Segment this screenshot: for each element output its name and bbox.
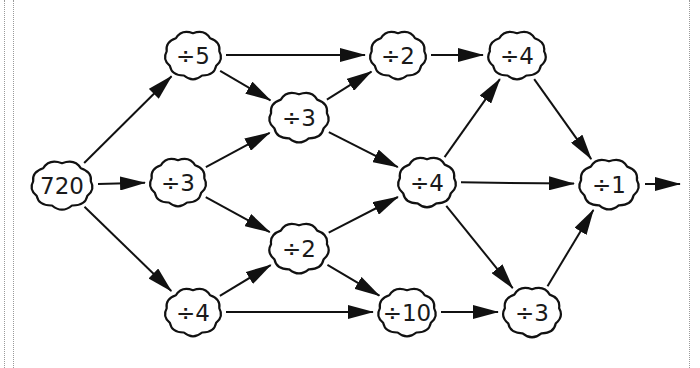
cloud-node-n_div3_a: ÷3 bbox=[150, 159, 206, 206]
arrow-n_div3_b-to-n_div2_a bbox=[327, 72, 372, 100]
cloud-node-start: 720 bbox=[32, 162, 93, 210]
arrow-n_div2_b-to-n_div4_b bbox=[329, 197, 398, 233]
node-label: ÷1 bbox=[592, 172, 626, 198]
node-label: ÷4 bbox=[500, 43, 534, 69]
node-label: ÷3 bbox=[515, 300, 549, 326]
node-label: ÷5 bbox=[176, 43, 210, 69]
cloud-node-n_div1: ÷1 bbox=[579, 160, 638, 210]
arrow-n_div3_a-to-n_div2_b bbox=[206, 197, 270, 232]
cloud-node-n_div4_c: ÷4 bbox=[488, 32, 546, 80]
node-label: ÷2 bbox=[381, 43, 415, 69]
cloud-node-n_div5: ÷5 bbox=[165, 32, 221, 79]
arrow-n_div5-to-n_div3_b bbox=[220, 71, 270, 100]
division-network-diagram: 720÷5÷3÷4÷3÷2÷2÷4÷10÷4÷1÷3 bbox=[0, 0, 700, 368]
cloud-node-n_div2_a: ÷2 bbox=[370, 32, 426, 79]
cloud-node-n_div10: ÷10 bbox=[378, 289, 436, 337]
arrow-n_div4_b-to-n_div4_c bbox=[445, 79, 500, 157]
node-label: ÷4 bbox=[176, 300, 210, 326]
arrow-n_div4_b-to-n_div1 bbox=[461, 182, 574, 183]
arrow-n_div4_b-to-n_div3_c bbox=[446, 206, 512, 288]
node-label: ÷3 bbox=[161, 170, 195, 196]
arrow-n_div4_a-to-n_div2_b bbox=[220, 265, 271, 296]
arrow-n_div2_b-to-n_div10 bbox=[327, 265, 379, 296]
arrow-n_div4_c-to-n_div1 bbox=[534, 79, 591, 159]
nodes-layer: 720÷5÷3÷4÷3÷2÷2÷4÷10÷4÷1÷3 bbox=[32, 32, 639, 337]
cloud-node-n_div2_b: ÷2 bbox=[269, 224, 328, 274]
arrow-start-to-n_div3_a bbox=[98, 183, 145, 184]
cloud-node-n_div4_b: ÷4 bbox=[398, 158, 456, 207]
arrow-start-to-n_div5 bbox=[84, 76, 171, 163]
node-label: ÷3 bbox=[282, 105, 316, 131]
arrow-n_div3_c-to-n_div1 bbox=[548, 210, 594, 286]
node-label: ÷10 bbox=[383, 300, 432, 326]
node-label: ÷4 bbox=[410, 170, 444, 196]
cloud-node-n_div3_b: ÷3 bbox=[269, 93, 328, 143]
cloud-node-n_div4_a: ÷4 bbox=[165, 289, 221, 336]
node-label: ÷2 bbox=[282, 236, 316, 262]
arrow-n_div3_a-to-n_div3_b bbox=[206, 133, 270, 167]
node-label: 720 bbox=[40, 173, 84, 199]
cloud-node-n_div3_c: ÷3 bbox=[503, 288, 561, 337]
arrow-start-to-n_div4_a bbox=[84, 207, 171, 291]
arrow-n_div3_b-to-n_div4_b bbox=[329, 132, 398, 167]
